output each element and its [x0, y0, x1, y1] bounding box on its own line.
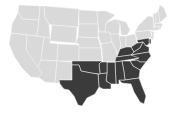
state-de	[149, 39, 151, 44]
state-co	[57, 44, 79, 61]
us-map	[0, 0, 169, 116]
state-ne	[76, 37, 101, 48]
state-ct	[154, 27, 159, 30]
state-nm	[55, 61, 73, 83]
state-ri	[159, 26, 161, 29]
state-wy	[50, 25, 77, 43]
state-ms	[106, 62, 116, 84]
state-mt	[44, 6, 79, 27]
state-sd	[78, 24, 98, 38]
state-nd	[79, 10, 98, 24]
state-ks	[79, 48, 102, 61]
state-ma	[154, 23, 163, 27]
